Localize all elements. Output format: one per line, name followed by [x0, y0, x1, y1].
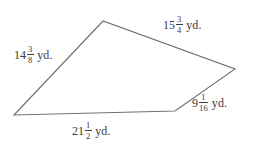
- numerator-top: 3: [177, 15, 182, 24]
- quadrilateral-shape: [0, 0, 258, 148]
- fraction-left: 3 8: [27, 45, 34, 64]
- fraction-right: 1 16: [199, 93, 209, 112]
- side-label-top: 15 3 4 yd.: [163, 15, 202, 34]
- denominator-bottom: 2: [86, 131, 91, 140]
- unit-label-bottom: yd.: [95, 125, 110, 137]
- mixed-number-left: 14 3 8: [14, 45, 34, 64]
- fraction-top: 3 4: [176, 15, 183, 34]
- side-label-left: 14 3 8 yd.: [14, 45, 53, 64]
- unit-label-right: yd.: [212, 97, 227, 109]
- numerator-bottom: 1: [86, 121, 91, 130]
- whole-number-right: 9: [192, 97, 198, 109]
- denominator-top: 4: [177, 25, 182, 34]
- whole-number-top: 15: [163, 19, 175, 31]
- denominator-left: 8: [28, 55, 33, 64]
- side-label-bottom: 21 1 2 yd.: [72, 121, 111, 140]
- geometry-figure: 14 3 8 yd. 15 3 4 yd. 9 1 16: [0, 0, 258, 148]
- fraction-bottom: 1 2: [85, 121, 92, 140]
- side-label-right: 9 1 16 yd.: [192, 93, 227, 112]
- mixed-number-top: 15 3 4: [163, 15, 183, 34]
- whole-number-left: 14: [14, 49, 26, 61]
- mixed-number-bottom: 21 1 2: [72, 121, 92, 140]
- numerator-right: 1: [201, 93, 206, 102]
- whole-number-bottom: 21: [72, 125, 84, 137]
- unit-label-top: yd.: [186, 19, 201, 31]
- mixed-number-right: 9 1 16: [192, 93, 208, 112]
- numerator-left: 3: [28, 45, 33, 54]
- unit-label-left: yd.: [37, 49, 52, 61]
- denominator-right: 16: [199, 103, 209, 112]
